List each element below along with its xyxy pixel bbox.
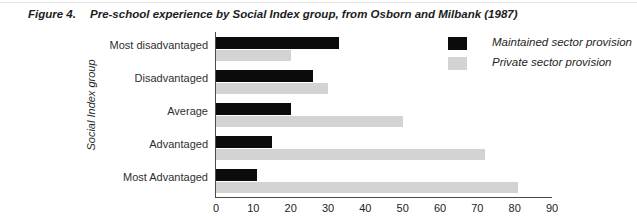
legend-swatch-private [448,57,467,70]
x-tick-label: 60 [425,202,455,214]
bar-maintained-3 [216,103,291,115]
x-tick-label: 20 [276,202,306,214]
bar-private-5 [216,182,518,193]
bar-private-3 [216,116,403,127]
category-label: Disadvantaged [58,72,208,84]
bar-maintained-4 [216,136,272,148]
x-tick-label: 50 [388,202,418,214]
top-divider [0,2,637,3]
bar-maintained-1 [216,37,339,49]
x-tick-label: 90 [537,202,567,214]
x-tick-label: 30 [313,202,343,214]
legend-label-maintained: Maintained sector provision [492,36,632,48]
category-label: Advantaged [58,138,208,150]
figure-container: Figure 4. Pre-school experience by Socia… [0,0,637,218]
legend-label-private: Private sector provision [492,56,612,68]
category-label: Average [58,105,208,117]
bar-maintained-2 [216,70,313,82]
x-tick-label: 70 [462,202,492,214]
bar-private-2 [216,83,328,94]
bar-private-4 [216,149,485,160]
bar-private-1 [216,50,291,61]
x-tick-label: 80 [500,202,530,214]
figure-number: Figure 4. [28,8,76,20]
x-tick-label: 40 [350,202,380,214]
legend-swatch-maintained [448,37,467,50]
category-label: Most disadvantaged [58,39,208,51]
category-label: Most Advantaged [58,171,208,183]
bar-maintained-5 [216,169,257,181]
x-tick-label: 10 [238,202,268,214]
figure-caption: Pre-school experience by Social Index gr… [90,8,518,20]
x-tick-label: 0 [201,202,231,214]
